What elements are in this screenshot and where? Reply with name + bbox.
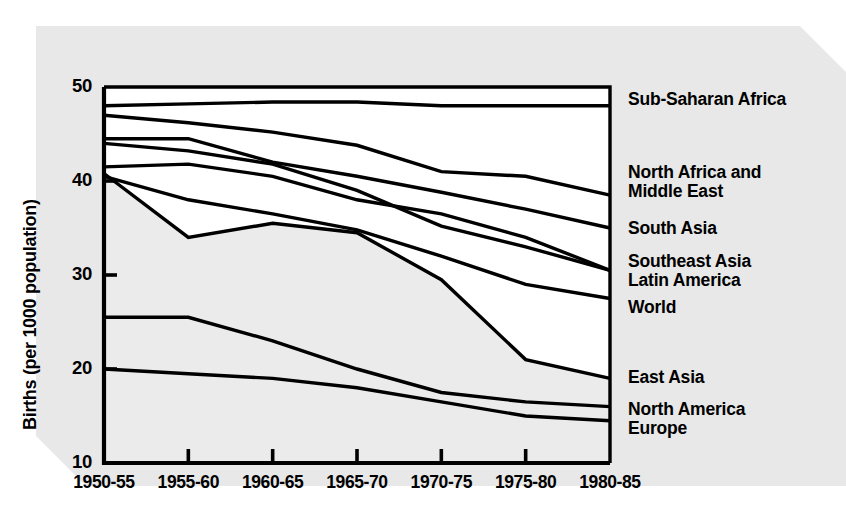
y-axis-title: Births (per 1000 population): [20, 199, 41, 430]
y-tick-label: 50: [52, 75, 92, 97]
x-tick-label: 1950-55: [62, 472, 146, 493]
y-tick-label: 20: [52, 357, 92, 379]
x-tick-label: 1970-75: [399, 472, 483, 493]
x-tick-label: 1975-80: [484, 472, 568, 493]
y-tick-label: 40: [52, 169, 92, 191]
x-tick-label: 1960-65: [231, 472, 315, 493]
chart-canvas: [0, 0, 846, 525]
y-tick-label: 10: [52, 451, 92, 473]
x-tick-label: 1980-85: [568, 472, 652, 493]
x-tick-label: 1955-60: [146, 472, 230, 493]
y-tick-label: 30: [52, 263, 92, 285]
chart-figure: Births (per 1000 population) 1020304050 …: [0, 0, 846, 525]
x-tick-label: 1965-70: [315, 472, 399, 493]
